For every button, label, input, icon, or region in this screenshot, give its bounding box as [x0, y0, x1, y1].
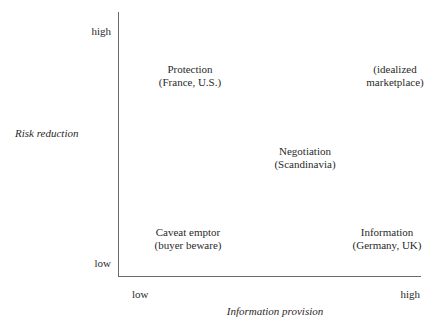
quadrant-caveat-emptor: Caveat emptor (buyer beware)	[138, 226, 238, 252]
quadrant-protection: Protection (France, U.S.)	[140, 63, 240, 89]
quadrant-title: Caveat emptor	[138, 226, 238, 239]
y-axis-low-label: low	[95, 257, 112, 270]
quadrant-title: Information	[347, 226, 427, 239]
x-axis-line	[118, 276, 421, 277]
x-axis-high-label: high	[400, 288, 420, 301]
quadrant-subtitle: (buyer beware)	[138, 239, 238, 252]
quadrant-idealized-marketplace: (idealized marketplace)	[360, 63, 430, 89]
y-axis-title: Risk reduction	[15, 127, 78, 140]
y-axis-line	[118, 12, 119, 277]
quadrant-subtitle: (Scandinavia)	[255, 158, 355, 171]
quadrant-title: Protection	[140, 63, 240, 76]
quadrant-negotiation: Negotiation (Scandinavia)	[255, 145, 355, 171]
quadrant-subtitle: marketplace)	[360, 76, 430, 89]
y-axis-high-label: high	[91, 25, 111, 38]
quadrant-subtitle: (Germany, UK)	[347, 239, 427, 252]
quadrant-title: Negotiation	[255, 145, 355, 158]
quadrant-title: (idealized	[360, 63, 430, 76]
x-axis-title: Information provision	[207, 305, 343, 318]
quadrant-information: Information (Germany, UK)	[347, 226, 427, 252]
x-axis-low-label: low	[132, 288, 149, 301]
quadrant-subtitle: (France, U.S.)	[140, 76, 240, 89]
